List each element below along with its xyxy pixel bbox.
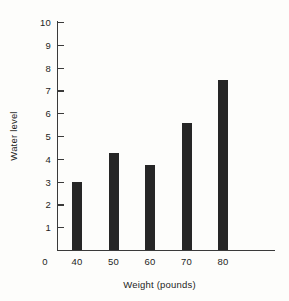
y-axis-tick-label: 4 — [46, 153, 51, 164]
x-axis-line — [57, 250, 275, 251]
x-axis-tick-label: 80 — [218, 256, 229, 267]
bar — [182, 123, 192, 250]
y-axis-tick-label: 10 — [40, 17, 51, 28]
y-axis-tick-label: 5 — [46, 131, 51, 142]
y-axis-tick-label: 1 — [46, 222, 51, 233]
x-axis-tick-label: 40 — [72, 256, 83, 267]
y-axis-tick-label: 2 — [46, 199, 51, 210]
bar-chart-figure: 12345678910 04050607080 Water level Weig… — [0, 0, 289, 301]
x-axis-title: Weight (pounds) — [0, 279, 289, 290]
bars-group — [57, 22, 275, 250]
bar — [218, 80, 228, 250]
x-axis-origin-label: 0 — [42, 256, 47, 267]
y-axis-tick-label: 7 — [46, 85, 51, 96]
bar — [72, 182, 82, 250]
y-axis-tick-label: 8 — [46, 62, 51, 73]
x-axis-tick-label: 70 — [181, 256, 192, 267]
y-axis-title: Water level — [8, 91, 19, 181]
x-axis-title-text: Weight (pounds) — [123, 279, 196, 290]
x-axis-tick-label: 60 — [145, 256, 156, 267]
x-axis-tick-label: 50 — [108, 256, 119, 267]
bar — [109, 153, 119, 250]
y-axis-tick-label: 9 — [46, 39, 51, 50]
y-axis-tick-label: 6 — [46, 108, 51, 119]
y-axis-tick-label: 3 — [46, 176, 51, 187]
bar — [145, 165, 155, 251]
